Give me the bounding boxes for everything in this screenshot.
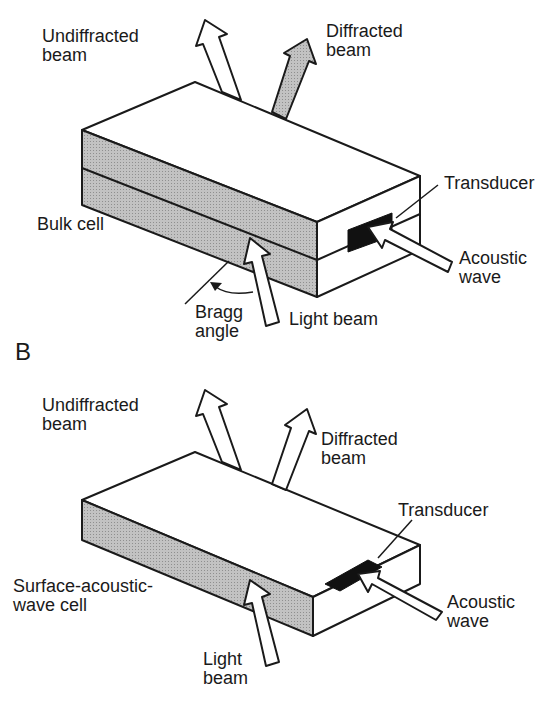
undiffracted-beam-label-a: Undiffractedbeam	[42, 27, 139, 65]
bragg-reference-line	[185, 261, 229, 304]
light-beam-label-b: Lightbeam	[203, 650, 248, 688]
acoustic-wave-label-b: Acousticwave	[447, 593, 515, 631]
undiffracted-beam-label-b: Undiffractedbeam	[42, 396, 139, 434]
diffracted-beam-label-b: Diffractedbeam	[321, 430, 398, 468]
saw-cell-label: Surface-acoustic-wave cell	[13, 577, 153, 615]
acousto-optic-diagram: Undiffractedbeam Diffractedbeam Transduc…	[0, 0, 559, 702]
section-label-b: B	[15, 338, 31, 366]
bulk-cell	[82, 82, 420, 297]
acoustic-wave-label-a: Acousticwave	[459, 249, 527, 287]
light-beam-label-a: Light beam	[289, 310, 378, 329]
bragg-angle-arc	[216, 287, 253, 293]
bulk-cell-label: Bulk cell	[37, 215, 104, 234]
transducer-label-b: Transducer	[398, 501, 488, 520]
bragg-angle-label: Braggangle	[195, 303, 243, 341]
diffracted-beam-label-a: Diffractedbeam	[326, 22, 403, 60]
diffracted-beam-arrow-b	[272, 409, 316, 490]
transducer-label-a: Transducer	[444, 174, 534, 193]
diffracted-beam-arrow-a	[272, 39, 316, 119]
